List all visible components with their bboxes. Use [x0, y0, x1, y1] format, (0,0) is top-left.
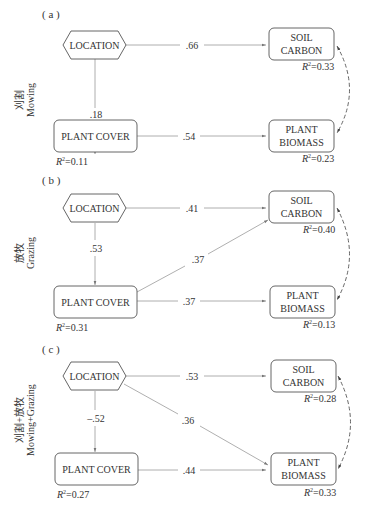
edge-location-biomass [124, 384, 178, 414]
r2-plant-cover: R2=0.27 [56, 489, 89, 500]
edge-cover-soil [137, 266, 185, 292]
r2-plant-biomass: R2=0.33 [303, 487, 336, 498]
svg-text:PLANT: PLANT [287, 457, 319, 468]
coef-location-soil: .66 [186, 40, 199, 51]
panel-label: ( a ) [42, 8, 60, 21]
r2-soil-carbon: R2=0.33 [301, 61, 334, 72]
node-soil-carbon: SOIL CARBON [269, 191, 334, 223]
node-plant-biomass: PLANT BIOMASS [269, 120, 334, 152]
coef-cover-biomass: .44 [183, 465, 196, 476]
side-label-en: Mowing+Grazing [25, 384, 36, 456]
node-plant-cover: PLANT COVER [54, 120, 137, 152]
svg-text:PLANT COVER: PLANT COVER [62, 464, 131, 475]
side-label-en: Mowing [25, 83, 36, 117]
svg-text:SOIL: SOIL [292, 364, 314, 375]
panel-b: ( b ) 放牧 Grazing .41 .53 .37 .37 LOCATIO… [13, 174, 350, 333]
svg-text:PLANT COVER: PLANT COVER [61, 297, 130, 308]
sem-diagram: ( a ) 刈割 Mowing .66 .18 .54 LOCATION PLA… [0, 0, 370, 506]
side-label: 刈割 Mowing [13, 83, 36, 117]
node-soil-carbon: SOIL CARBON [269, 28, 334, 60]
coef-location-cover: .18 [90, 109, 103, 120]
side-label-cn: 刈割+放牧 [13, 397, 25, 443]
edge-cover-soil-arrow [208, 220, 268, 254]
side-label-cn: 刈割 [13, 90, 25, 110]
correlation-soil-biomass [337, 208, 350, 300]
svg-text:PLANT: PLANT [285, 124, 317, 135]
coef-cover-soil: .37 [192, 254, 205, 265]
coef-location-cover: .53 [90, 243, 103, 254]
side-label: 刈割+放牧 Mowing+Grazing [13, 384, 36, 456]
svg-text:CARBON: CARBON [283, 377, 325, 388]
r2-plant-cover: R2=0.31 [55, 322, 88, 333]
r2-plant-biomass: R2=0.13 [302, 319, 335, 330]
node-location: LOCATION [63, 31, 126, 59]
panel-c: ( c ) 刈割+放牧 Mowing+Grazing .53 –.52 .36 … [13, 343, 351, 500]
r2-soil-carbon: R2=0.28 [303, 393, 336, 404]
panel-label: ( c ) [42, 343, 60, 356]
correlation-soil-biomass [337, 46, 350, 133]
svg-text:SOIL: SOIL [290, 195, 312, 206]
svg-text:CARBON: CARBON [281, 208, 323, 219]
svg-text:BIOMASS: BIOMASS [281, 470, 325, 481]
coef-cover-biomass: .37 [183, 296, 196, 307]
node-soil-carbon: SOIL CARBON [271, 360, 336, 392]
svg-text:LOCATION: LOCATION [70, 40, 120, 51]
correlation-soil-biomass [338, 376, 351, 469]
r2-soil-carbon: R2=0.40 [302, 224, 335, 235]
svg-text:BIOMASS: BIOMASS [280, 303, 324, 314]
svg-text:LOCATION: LOCATION [70, 203, 120, 214]
coef-cover-biomass: .54 [183, 131, 196, 142]
svg-text:PLANT: PLANT [286, 290, 318, 301]
svg-text:LOCATION: LOCATION [70, 371, 120, 382]
coef-location-soil: .41 [186, 203, 199, 214]
node-location: LOCATION [63, 194, 126, 222]
r2-plant-cover: R2=0.11 [55, 156, 88, 167]
node-plant-cover: PLANT COVER [55, 453, 138, 485]
r2-plant-biomass: R2=0.23 [301, 153, 334, 164]
svg-text:CARBON: CARBON [281, 45, 323, 56]
side-label: 放牧 Grazing [13, 237, 36, 269]
coef-location-soil: .53 [186, 371, 199, 382]
edge-location-biomass-arrow [200, 426, 268, 465]
side-label-en: Grazing [25, 237, 36, 269]
node-location: LOCATION [63, 362, 126, 390]
side-label-cn: 放牧 [13, 243, 25, 263]
svg-text:BIOMASS: BIOMASS [279, 137, 323, 148]
panel-a: ( a ) 刈割 Mowing .66 .18 .54 LOCATION PLA… [13, 8, 350, 167]
svg-text:PLANT COVER: PLANT COVER [61, 131, 130, 142]
node-plant-biomass: PLANT BIOMASS [271, 453, 336, 485]
svg-text:SOIL: SOIL [290, 32, 312, 43]
node-plant-cover: PLANT COVER [54, 286, 137, 318]
node-plant-biomass: PLANT BIOMASS [270, 286, 335, 318]
coef-location-cover: –.52 [86, 413, 105, 424]
coef-location-biomass: .36 [182, 415, 195, 426]
panel-label: ( b ) [42, 174, 61, 187]
